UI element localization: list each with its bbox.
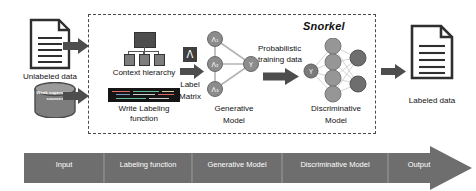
arrow-unlabeled-to-hierarchy — [63, 38, 89, 54]
arrow-label-matrix — [180, 64, 204, 79]
document-icon — [410, 24, 454, 80]
banner-stage-output: Output — [388, 160, 450, 169]
generative-model-graph: Λ₁ Λ₂ Λ₃ Y — [203, 28, 265, 100]
svg-text:Λ₃: Λ₃ — [211, 86, 218, 94]
hierarchy-child-node — [124, 54, 135, 66]
svg-text:Y: Y — [248, 61, 253, 69]
generative-model-label-line2: Model — [194, 116, 274, 126]
context-hierarchy-label: Context hierarchy — [99, 68, 189, 78]
banner-stage-input: Input — [24, 160, 104, 169]
banner-stage-labeling-function: Labeling function — [104, 160, 192, 169]
banner-stage-generative-model: Generative Model — [192, 160, 282, 169]
generative-model-label-line1: Generative — [194, 104, 274, 114]
hierarchy-parent-node — [134, 32, 156, 48]
hierarchy-child-node — [154, 54, 165, 66]
label-matrix-icon: Λ — [183, 47, 197, 62]
svg-text:Λ₁: Λ₁ — [211, 36, 218, 44]
discriminative-model-label-line1: Discriminative — [292, 104, 380, 114]
snorkel-label: Snorkel — [303, 20, 345, 32]
unlabeled-data-label: Unlabeled data — [0, 72, 100, 82]
discriminative-model-label-line2: Model — [292, 116, 380, 126]
banner-stage-discriminative-model: Discriminative Model — [282, 160, 388, 169]
write-labeling-function-label-line1: Write Labeling — [104, 104, 184, 114]
discriminative-model-network: Y — [302, 38, 368, 104]
svg-text:Y: Y — [308, 68, 313, 76]
arrow-probabilistic-training-data — [263, 68, 299, 85]
write-labeling-function-label-line2: function — [104, 114, 184, 124]
labeled-data-label: Labeled data — [392, 96, 472, 106]
tree-hierarchy-icon — [120, 32, 168, 64]
arrow-to-labeled-data — [381, 64, 406, 79]
svg-text:Λ₂: Λ₂ — [211, 61, 218, 69]
hierarchy-child-node — [139, 54, 150, 66]
arrow-sources-to-labeling-function — [63, 88, 89, 104]
